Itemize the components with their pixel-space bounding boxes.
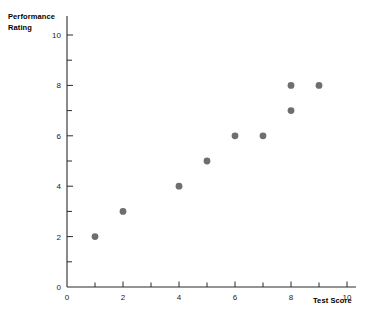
data-point <box>288 107 295 114</box>
data-point <box>92 233 99 240</box>
data-point <box>120 208 127 215</box>
scatter-chart: Performance Rating Test Score 0246810024… <box>0 0 371 316</box>
y-tick-label: 4 <box>57 182 62 191</box>
data-points <box>92 82 323 240</box>
data-point <box>316 82 323 89</box>
y-tick-label: 6 <box>57 132 62 141</box>
x-tick-label: 8 <box>289 293 294 302</box>
x-tick-label: 0 <box>65 293 70 302</box>
y-tick-label: 2 <box>57 233 62 242</box>
x-tick-label: 2 <box>121 293 126 302</box>
x-tick-label: 4 <box>177 293 182 302</box>
y-tick-label: 10 <box>52 31 61 40</box>
axes <box>67 16 356 287</box>
y-tick-label: 0 <box>57 283 62 292</box>
x-tick-label: 10 <box>343 293 352 302</box>
data-point <box>288 82 295 89</box>
data-point <box>232 132 239 139</box>
data-point <box>260 132 267 139</box>
data-point <box>176 183 183 190</box>
axis-tick-labels: 02468100246810 <box>52 31 352 302</box>
y-tick-label: 8 <box>57 81 62 90</box>
plot-area: 02468100246810 <box>0 0 371 316</box>
x-tick-label: 6 <box>233 293 238 302</box>
data-point <box>204 158 211 165</box>
